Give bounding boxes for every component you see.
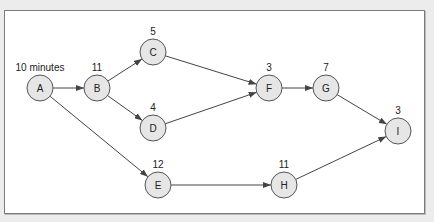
node-duration: 7	[323, 62, 329, 73]
edge-H-I	[296, 137, 387, 180]
node-duration: 11	[279, 159, 290, 170]
node-duration: 3	[266, 62, 272, 73]
edge-G-I	[337, 95, 387, 125]
node-G: G7	[313, 62, 339, 101]
edge-C-F	[165, 56, 256, 84]
node-duration: 5	[150, 26, 156, 37]
node-label: D	[149, 123, 156, 134]
node-H: H11	[271, 159, 297, 198]
node-B: B11	[84, 62, 110, 101]
node-F: F3	[256, 62, 282, 101]
node-C: C5	[140, 26, 166, 65]
node-duration: 4	[150, 102, 156, 113]
edge-A-E	[50, 96, 148, 176]
node-label: H	[280, 180, 287, 191]
node-A: A10 minutes	[16, 62, 65, 101]
node-duration: 12	[152, 159, 164, 170]
edge-B-C	[108, 59, 142, 81]
network-diagram: A10 minutesB11C5D4E12F3G7H11I3	[0, 0, 434, 222]
node-I: I3	[385, 105, 411, 144]
edge-D-F	[165, 92, 256, 124]
node-duration: 11	[92, 62, 103, 73]
node-duration: 10 minutes	[16, 62, 65, 73]
node-D: D4	[140, 102, 166, 141]
node-label: G	[322, 83, 330, 94]
node-label: F	[266, 83, 272, 94]
node-label: C	[149, 47, 156, 58]
node-E: E12	[145, 159, 171, 198]
node-label: A	[37, 83, 44, 94]
node-label: B	[94, 83, 101, 94]
node-label: E	[155, 180, 162, 191]
node-duration: 3	[395, 105, 401, 116]
node-label: I	[397, 126, 400, 137]
edge-B-D	[108, 96, 143, 121]
